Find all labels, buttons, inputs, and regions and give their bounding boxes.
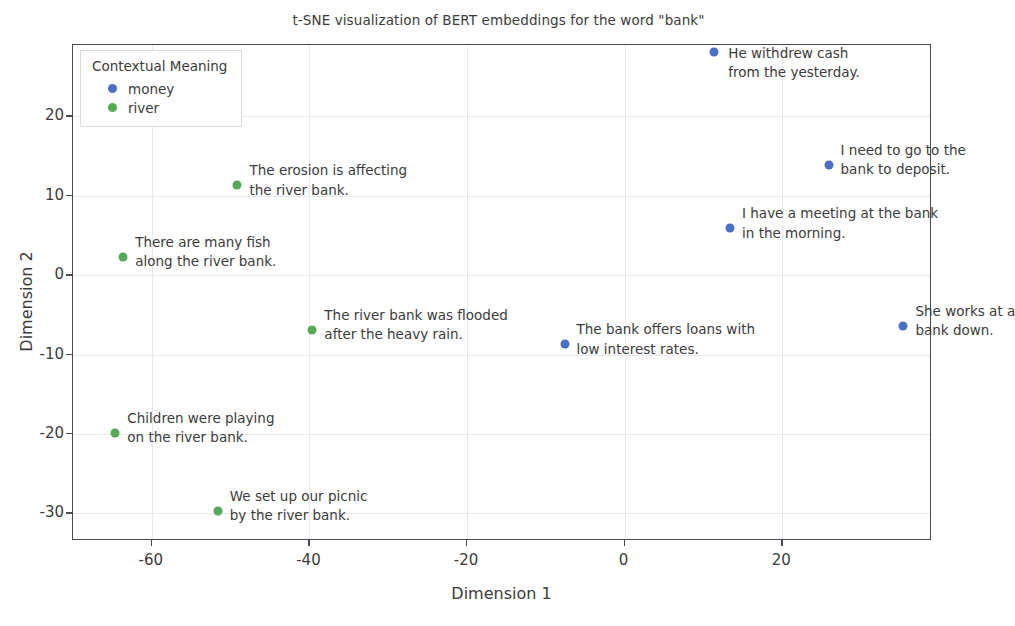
- data-point-river[interactable]: [308, 325, 317, 334]
- data-point-money[interactable]: [560, 339, 569, 348]
- x-axis-tick: [466, 540, 467, 546]
- point-annotation: The bank offers loans with low interest …: [577, 320, 755, 359]
- data-point-river[interactable]: [119, 252, 128, 261]
- y-axis-tick-label: -10: [40, 345, 65, 363]
- legend-swatch-river: [108, 103, 117, 112]
- point-annotation: He withdrew cash from the yesterday.: [728, 44, 860, 83]
- y-axis-tick-label: -30: [40, 503, 65, 521]
- y-axis-label: Dimension 2: [17, 192, 36, 412]
- gridline-horizontal: [73, 513, 930, 514]
- data-point-river[interactable]: [213, 506, 222, 515]
- data-point-money[interactable]: [899, 321, 908, 330]
- legend-entries: moneyriver: [92, 79, 227, 117]
- gridline-horizontal: [73, 196, 930, 197]
- point-annotation: Children were playing on the river bank.: [127, 409, 274, 448]
- legend-item-label: money: [128, 81, 174, 97]
- point-annotation: I need to go to the bank to deposit.: [841, 141, 966, 180]
- x-axis-label: Dimension 1: [72, 584, 931, 603]
- x-axis-tick-label: 0: [619, 551, 629, 569]
- y-axis-tick-label: 20: [45, 106, 64, 124]
- point-annotation: The erosion is affecting the river bank.: [249, 161, 407, 200]
- gridline-vertical: [309, 45, 310, 539]
- page-title: t-SNE visualization of BERT embeddings f…: [0, 12, 997, 28]
- y-axis-tick-label: -20: [40, 424, 65, 442]
- legend-swatch-money: [108, 84, 117, 93]
- gridline-vertical: [467, 45, 468, 539]
- y-axis-tick: [66, 512, 72, 513]
- point-annotation: The river bank was flooded after the hea…: [324, 306, 507, 345]
- gridline-horizontal: [73, 275, 930, 276]
- x-axis-tick: [781, 540, 782, 546]
- legend-item-river[interactable]: river: [92, 98, 227, 117]
- x-axis-tick: [624, 540, 625, 546]
- x-axis-tick-label: -20: [454, 551, 479, 569]
- y-axis-tick: [66, 354, 72, 355]
- data-point-river[interactable]: [233, 181, 242, 190]
- x-axis-tick-label: -60: [139, 551, 164, 569]
- legend: Contextual Meaning moneyriver: [80, 50, 242, 127]
- point-annotation: She works at a bank down.: [915, 302, 1015, 341]
- x-axis-tick-label: -40: [296, 551, 321, 569]
- data-point-river[interactable]: [111, 428, 120, 437]
- y-axis-tick: [66, 115, 72, 116]
- gridline-vertical: [782, 45, 783, 539]
- legend-item-money[interactable]: money: [92, 79, 227, 98]
- x-axis-tick: [308, 540, 309, 546]
- x-axis-tick-label: 20: [772, 551, 791, 569]
- data-point-money[interactable]: [726, 224, 735, 233]
- data-point-money[interactable]: [824, 160, 833, 169]
- y-axis-tick: [66, 433, 72, 434]
- point-annotation: We set up our picnic by the river bank.: [230, 487, 368, 526]
- legend-title: Contextual Meaning: [92, 58, 227, 74]
- y-axis-tick: [66, 274, 72, 275]
- x-axis-tick: [151, 540, 152, 546]
- y-axis-tick-label: 10: [45, 186, 64, 204]
- data-point-money[interactable]: [710, 47, 719, 56]
- y-axis-tick-label: 0: [54, 265, 64, 283]
- legend-item-label: river: [128, 100, 159, 116]
- point-annotation: There are many fish along the river bank…: [135, 233, 276, 272]
- point-annotation: I have a meeting at the bank in the morn…: [742, 204, 938, 243]
- gridline-horizontal: [73, 355, 930, 356]
- gridline-vertical: [625, 45, 626, 539]
- y-axis-tick: [66, 195, 72, 196]
